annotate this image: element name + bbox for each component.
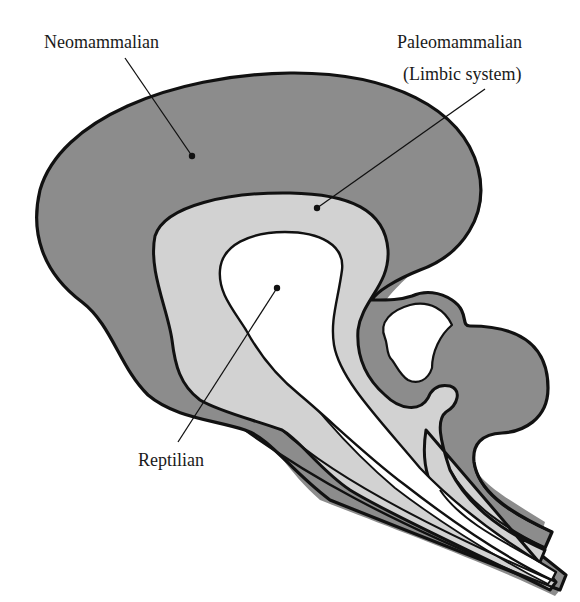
brain-drawing <box>0 0 580 602</box>
triune-brain-diagram: Neomammalian Paleomammalian (Limbic syst… <box>0 0 580 602</box>
label-limbic-system: (Limbic system) <box>403 64 521 85</box>
label-neomammalian: Neomammalian <box>44 32 159 53</box>
label-paleomammalian: Paleomammalian <box>397 32 522 53</box>
label-reptilian: Reptilian <box>138 450 204 471</box>
